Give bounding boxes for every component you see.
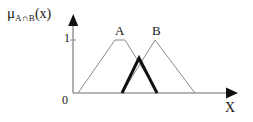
mu-glyph: μ <box>7 5 15 21</box>
fuzzy-intersection-figure: μA∩B(x) 1 0 X A B <box>0 0 253 122</box>
x-axis-arrow-icon <box>226 88 238 99</box>
y-axis-arrow-icon <box>68 14 78 26</box>
set-a-label: A <box>115 24 124 37</box>
curve-set-b <box>122 40 195 93</box>
curve-set-a <box>78 40 158 93</box>
x-axis-label: X <box>225 101 235 115</box>
y-axis-argument: (x) <box>35 6 51 21</box>
set-b-label: B <box>152 24 161 37</box>
y-axis-subscript: A∩B <box>15 13 35 23</box>
origin-zero-label: 0 <box>62 94 68 106</box>
y-tick-one-label: 1 <box>64 32 70 44</box>
y-axis-label: μA∩B(x) <box>7 6 51 23</box>
